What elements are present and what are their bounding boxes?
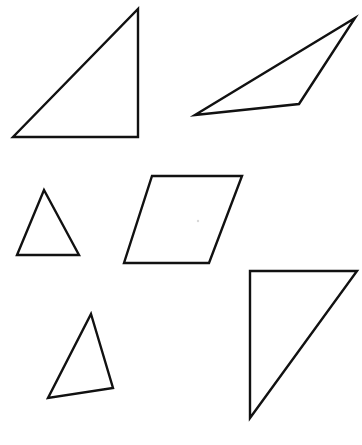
shapes-svg — [0, 0, 362, 445]
stray-speck — [197, 220, 199, 222]
figure-canvas — [0, 0, 362, 445]
